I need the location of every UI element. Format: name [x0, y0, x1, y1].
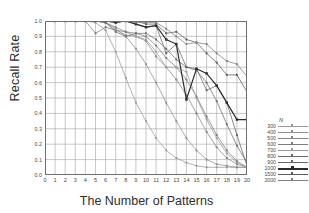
data-point	[145, 39, 147, 41]
y-tick-label: 0.7	[20, 64, 42, 70]
data-point	[236, 118, 238, 120]
data-point	[165, 32, 167, 34]
data-point	[206, 119, 208, 121]
series-300	[54, 21, 247, 168]
data-point	[175, 31, 177, 33]
data-point	[206, 82, 208, 84]
legend-marker	[291, 166, 294, 169]
legend-line-swatch	[278, 156, 308, 157]
legend-marker	[291, 154, 293, 156]
data-point	[195, 68, 197, 70]
series-layer	[54, 21, 247, 168]
series-line	[55, 21, 247, 167]
data-point	[185, 43, 187, 45]
legend-line-swatch	[278, 144, 308, 145]
y-tick-label: 0.4	[20, 110, 42, 116]
data-point	[185, 79, 187, 81]
legend-line-swatch	[278, 138, 308, 139]
legend-item-label: 2000	[262, 178, 276, 183]
series-800	[54, 21, 247, 164]
data-point	[196, 165, 198, 167]
data-point	[226, 149, 228, 151]
data-point	[236, 134, 238, 136]
y-tick-label: 0.2	[20, 141, 42, 147]
data-point	[105, 29, 107, 31]
data-point	[165, 48, 167, 50]
y-tick-label: 0.9	[20, 33, 42, 39]
data-point	[155, 39, 157, 41]
legend-line-swatch	[278, 132, 308, 133]
x-axis-title: The Number of Patterns	[45, 194, 248, 208]
data-point	[206, 166, 208, 168]
data-point	[155, 55, 157, 57]
data-point	[145, 32, 147, 34]
data-point	[145, 120, 147, 122]
data-point	[175, 35, 177, 37]
legend-item-2000[interactable]: 2000	[262, 178, 309, 183]
data-point	[125, 77, 127, 79]
y-tick-label: 0.5	[20, 95, 42, 101]
data-point	[226, 60, 228, 62]
data-point	[236, 166, 238, 168]
series-700	[54, 21, 247, 168]
data-point	[115, 51, 117, 53]
legend-line-swatch	[278, 174, 308, 175]
legend-marker	[291, 124, 293, 126]
legend-marker	[291, 148, 293, 150]
plot-area	[45, 21, 247, 175]
data-point	[115, 31, 117, 33]
y-tick-label: 0.3	[20, 126, 42, 132]
legend-marker	[291, 142, 293, 144]
series-line	[55, 21, 247, 167]
data-point	[185, 66, 187, 68]
data-point	[95, 32, 97, 34]
series-line	[55, 21, 247, 163]
data-point	[175, 157, 177, 159]
data-point	[216, 52, 218, 54]
series-line	[55, 21, 247, 167]
data-point	[236, 145, 238, 147]
y-tick-label: 0.6	[20, 80, 42, 86]
legend-marker	[291, 136, 293, 138]
data-point	[226, 123, 228, 125]
legend-marker	[291, 130, 293, 132]
legend-line-swatch	[278, 150, 308, 151]
data-point	[196, 42, 198, 44]
series-2000	[54, 21, 247, 77]
legend-line-swatch	[278, 126, 308, 127]
data-point	[206, 43, 208, 45]
data-point	[205, 72, 207, 74]
data-point	[216, 62, 218, 64]
data-point	[216, 146, 218, 148]
data-point	[236, 74, 238, 76]
data-point	[185, 162, 187, 164]
series-line	[55, 21, 247, 92]
data-point	[216, 163, 218, 165]
data-point	[196, 149, 198, 151]
data-point	[165, 149, 167, 151]
data-point	[165, 57, 167, 59]
data-point	[155, 51, 157, 53]
data-point	[135, 48, 137, 50]
data-point	[115, 26, 117, 28]
y-tick-label: 0.1	[20, 157, 42, 163]
y-tick-label: 0.8	[20, 49, 42, 55]
x-tick-label: 20	[241, 177, 253, 184]
data-point	[236, 63, 238, 65]
series-line	[55, 21, 247, 167]
series-400	[54, 21, 247, 168]
series-line	[55, 21, 247, 167]
legend-title: N	[279, 117, 283, 123]
data-point	[175, 59, 177, 61]
data-point	[216, 100, 218, 102]
data-point	[185, 137, 187, 139]
data-point	[175, 43, 177, 45]
data-point	[165, 66, 167, 68]
data-point	[175, 66, 177, 68]
legend-marker	[291, 178, 293, 180]
chart-figure: Recall Rate The Number of Patterns 0.00.…	[0, 0, 309, 213]
data-point	[175, 120, 177, 122]
data-point	[196, 112, 198, 114]
data-point	[155, 45, 157, 47]
data-point	[206, 116, 208, 118]
